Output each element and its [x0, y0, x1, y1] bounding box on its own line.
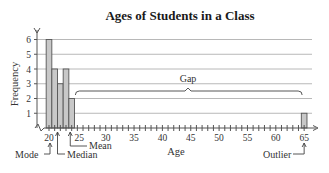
bar-age-24: [69, 99, 75, 129]
y-tick-label: 1: [26, 109, 31, 119]
x-tick-label: 65: [299, 133, 309, 143]
y-tick-label: 3: [26, 79, 31, 89]
outlier-label: Outlier: [263, 149, 292, 160]
gap-label: Gap: [180, 73, 197, 84]
x-tick-label: 25: [75, 133, 85, 143]
bar-age-22: [58, 84, 64, 128]
bar-age-20: [46, 40, 52, 129]
x-tick-label: 45: [186, 133, 196, 143]
histogram-chart: Ages of Students in a Class 123456 20253…: [0, 0, 329, 173]
y-tick-label: 5: [26, 50, 31, 60]
gridlines: [37, 40, 312, 114]
mode-label: Mode: [15, 149, 39, 160]
x-axis-label: Age: [167, 146, 185, 157]
x-tick-label: 40: [158, 133, 168, 143]
mean-label: Mean: [89, 140, 112, 151]
y-axis-label: Frequency: [9, 61, 20, 106]
outlier-annotation: Outlier: [263, 143, 306, 160]
bar-age-23: [63, 69, 69, 128]
x-tick-label: 55: [243, 133, 253, 143]
x-tick-label: 20: [44, 133, 54, 143]
x-tick-label: 60: [271, 133, 281, 143]
y-axis-ticks: 123456: [26, 35, 37, 119]
y-tick-label: 2: [26, 94, 31, 104]
x-tick-label: 35: [129, 133, 139, 143]
mode-annotation: Mode: [15, 143, 52, 160]
x-tick-label: 50: [214, 133, 224, 143]
bar-age-21: [52, 69, 58, 128]
chart-title: Ages of Students in a Class: [105, 8, 254, 23]
y-tick-label: 6: [26, 35, 31, 45]
y-tick-label: 4: [26, 65, 31, 75]
axes: [34, 28, 318, 131]
